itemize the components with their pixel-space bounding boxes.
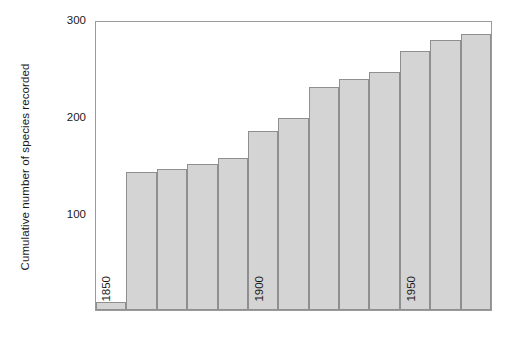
y-axis-title: Cumulative number of species recorded <box>14 2 36 332</box>
y-tick-label-100: 100 <box>26 209 86 221</box>
bar <box>157 169 187 310</box>
figure-caption <box>0 350 505 362</box>
bar <box>461 34 491 310</box>
bar <box>278 118 308 310</box>
x-tick-label-1950: 1950 <box>405 276 418 316</box>
y-tick-label-200: 200 <box>26 112 86 124</box>
bar <box>218 158 248 310</box>
bar-series <box>96 22 491 310</box>
bar <box>430 40 460 310</box>
bar <box>369 72 399 310</box>
bar <box>309 87 339 310</box>
y-tick-label-300: 300 <box>26 15 86 27</box>
bar <box>339 79 369 310</box>
chart-figure: Cumulative number of species recorded 30… <box>0 0 505 362</box>
plot-area <box>95 21 492 311</box>
x-tick-label-1850: 1850 <box>100 276 113 316</box>
bar <box>126 172 156 310</box>
bar <box>400 51 430 310</box>
bar <box>187 164 217 310</box>
x-tick-label-1900: 1900 <box>253 276 266 316</box>
